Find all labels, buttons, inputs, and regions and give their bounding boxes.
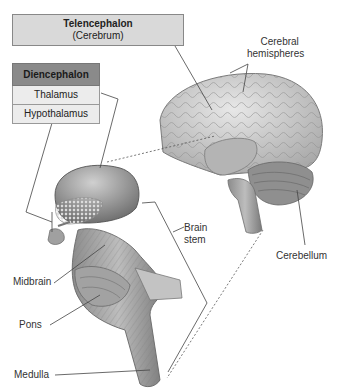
- diencephalon-header: Diencephalon: [12, 63, 100, 86]
- telencephalon-subtitle: (Cerebrum): [13, 30, 183, 42]
- midbrain-label: Midbrain: [13, 276, 51, 288]
- diencephalon-label-box: Diencephalon Thalamus Hypothalamus: [12, 63, 100, 124]
- thalamus-row: Thalamus: [12, 86, 100, 105]
- telencephalon-label-box: Telencephalon (Cerebrum): [12, 14, 184, 46]
- brainstem-detail: [48, 165, 182, 386]
- brain-stem-line1: Brain: [184, 222, 207, 234]
- cerebral-hemispheres-label: Cerebral hemispheres: [255, 36, 304, 60]
- cerebral-label-line2: hemispheres: [247, 48, 304, 60]
- hypothalamus-row: Hypothalamus: [12, 105, 100, 124]
- brain-stem-line2: stem: [184, 234, 207, 246]
- cerebellum-label: Cerebellum: [276, 250, 327, 262]
- whole-brain: [160, 73, 322, 233]
- telencephalon-title: Telencephalon: [13, 18, 183, 30]
- pons-label: Pons: [19, 319, 42, 331]
- medulla-label: Medulla: [14, 369, 49, 381]
- brain-stem-label: Brain stem: [184, 222, 207, 246]
- cerebral-label-line1: Cerebral: [255, 36, 304, 48]
